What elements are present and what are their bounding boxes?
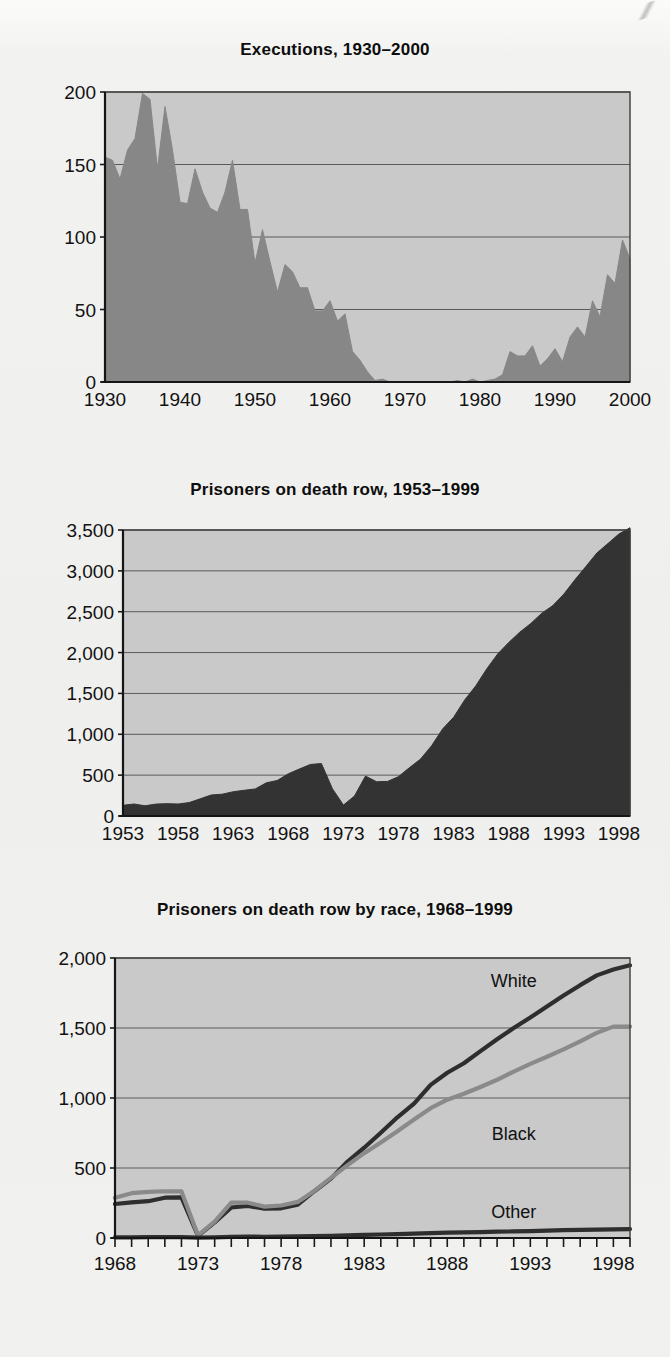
y-tick-label: 200 xyxy=(64,82,96,103)
x-tick-label: 1963 xyxy=(212,823,254,844)
chart-canvas-death-row: 05001,0001,5002,0002,5003,0003,500195319… xyxy=(15,506,655,851)
chart-title-executions: Executions, 1930–2000 xyxy=(0,40,670,60)
x-tick-label: 1993 xyxy=(509,1253,551,1274)
y-tick-label: 0 xyxy=(95,1228,106,1249)
scan-artifact-mark xyxy=(630,0,659,21)
page-canvas: Executions, 1930–2000 050100150200193019… xyxy=(0,0,670,1357)
x-tick-label: 1968 xyxy=(94,1253,136,1274)
x-tick-label: 1990 xyxy=(534,389,576,410)
chart-title-death-row-by-race: Prisoners on death row by race, 1968–199… xyxy=(0,900,670,920)
x-tick-label: 1983 xyxy=(433,823,475,844)
y-tick-label: 2,500 xyxy=(66,602,114,623)
y-tick-label: 500 xyxy=(82,765,114,786)
y-tick-label: 1,000 xyxy=(66,724,114,745)
y-tick-label: 3,000 xyxy=(66,561,114,582)
y-tick-label: 1,500 xyxy=(66,683,114,704)
chart-canvas-executions: 0501001502001930194019501960197019801990… xyxy=(15,66,655,416)
y-tick-label: 1,000 xyxy=(58,1088,106,1109)
x-tick-label: 1988 xyxy=(488,823,530,844)
y-tick-label: 500 xyxy=(74,1158,106,1179)
y-tick-label: 100 xyxy=(64,227,96,248)
figure-death-row-by-race: Prisoners on death row by race, 1968–199… xyxy=(0,900,670,1320)
x-tick-label: 1993 xyxy=(543,823,585,844)
x-tick-label: 2000 xyxy=(609,389,651,410)
x-tick-label: 1973 xyxy=(322,823,364,844)
x-tick-label: 1973 xyxy=(177,1253,219,1274)
x-tick-label: 1940 xyxy=(159,389,201,410)
y-tick-label: 3,500 xyxy=(66,520,114,541)
series-label-white: White xyxy=(491,971,537,991)
x-tick-label: 1998 xyxy=(598,823,640,844)
x-tick-label: 1978 xyxy=(377,823,419,844)
y-tick-label: 1,500 xyxy=(58,1018,106,1039)
x-tick-label: 1970 xyxy=(384,389,426,410)
x-tick-label: 1950 xyxy=(234,389,276,410)
x-tick-label: 1960 xyxy=(309,389,351,410)
figure-executions: Executions, 1930–2000 050100150200193019… xyxy=(0,40,670,430)
x-tick-label: 1980 xyxy=(459,389,501,410)
y-tick-label: 50 xyxy=(75,300,96,321)
x-tick-label: 1998 xyxy=(592,1253,634,1274)
series-label-other: Other xyxy=(491,1202,536,1222)
y-tick-label: 2,000 xyxy=(58,948,106,969)
x-tick-label: 1978 xyxy=(260,1253,302,1274)
chart-canvas-death-row-by-race: 05001,0001,5002,000196819731978198319881… xyxy=(15,926,655,1311)
x-tick-label: 1958 xyxy=(157,823,199,844)
x-tick-label: 1953 xyxy=(102,823,144,844)
x-tick-label: 1968 xyxy=(267,823,309,844)
x-tick-label: 1930 xyxy=(84,389,126,410)
series-label-black: Black xyxy=(492,1124,537,1144)
y-tick-label: 150 xyxy=(64,155,96,176)
chart-title-death-row: Prisoners on death row, 1953–1999 xyxy=(0,480,670,500)
x-tick-label: 1988 xyxy=(426,1253,468,1274)
x-tick-label: 1983 xyxy=(343,1253,385,1274)
y-tick-label: 2,000 xyxy=(66,643,114,664)
figure-death-row: Prisoners on death row, 1953–1999 05001,… xyxy=(0,480,670,860)
